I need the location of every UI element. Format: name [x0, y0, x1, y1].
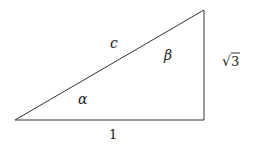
hypotenuse-side: [15, 10, 204, 120]
hypotenuse-label: c: [110, 35, 118, 51]
right-triangle-diagram: c β α 1 √ 3: [0, 0, 253, 145]
radical-value: 3: [231, 54, 239, 69]
base-label: 1: [109, 127, 117, 142]
height-label: √ 3: [222, 53, 240, 69]
angle-alpha-label: α: [78, 91, 88, 107]
angle-beta-label: β: [163, 47, 172, 63]
radical-sign: √: [222, 53, 231, 69]
